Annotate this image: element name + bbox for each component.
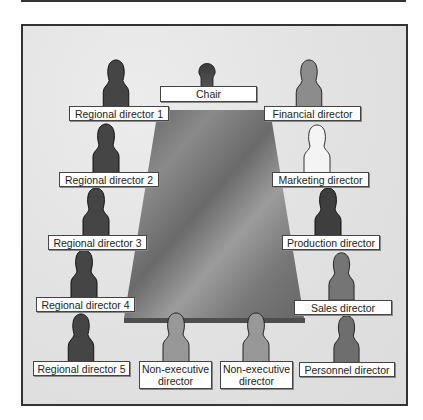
- label-regional-director-1: Regional director 1: [69, 106, 169, 121]
- person-icon-regional-director-4: [69, 249, 99, 299]
- person-icon-personnel-director: [332, 314, 361, 364]
- person-icon-regional-director-5: [66, 313, 96, 362]
- label-line-1: Non-executive: [221, 363, 292, 375]
- label-line-2: director: [140, 375, 211, 387]
- label-personnel-director: Personnel director: [299, 362, 395, 377]
- person-icon-non-executive-director-2: [241, 312, 271, 362]
- person-icon-non-executive-director-1: [161, 312, 191, 362]
- label-regional-director-2: Regional director 2: [59, 172, 159, 187]
- label-regional-director-5: Regional director 5: [33, 361, 130, 376]
- person-icon-financial-director: [294, 59, 324, 108]
- label-non-executive-director-2: Non-executive director: [220, 361, 293, 389]
- person-icon-regional-director-3: [81, 187, 111, 237]
- person-icon-regional-director-2: [91, 123, 121, 173]
- label-regional-director-4: Regional director 4: [36, 297, 135, 312]
- label-chair: Chair: [160, 86, 257, 102]
- label-regional-director-3: Regional director 3: [48, 235, 147, 250]
- label-sales-director: Sales director: [294, 300, 392, 315]
- person-icon-regional-director-1: [101, 59, 131, 108]
- label-line-1: Non-executive: [140, 363, 211, 375]
- label-production-director: Production director: [282, 235, 380, 250]
- label-marketing-director: Marketing director: [272, 172, 369, 187]
- person-icon-production-director: [313, 187, 343, 237]
- person-icon-sales-director: [327, 251, 356, 301]
- label-non-executive-director-1: Non-executive director: [139, 361, 212, 389]
- label-line-2: director: [221, 375, 292, 387]
- top-frame-edge: [21, 0, 406, 2]
- label-financial-director: Financial director: [264, 106, 361, 121]
- person-icon-marketing-director: [302, 124, 332, 174]
